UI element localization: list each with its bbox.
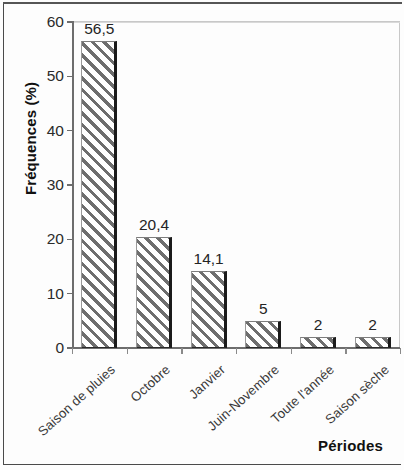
y-tick-mark	[67, 130, 72, 131]
page-frame-top-edge	[3, 2, 402, 4]
x-tick-mark	[181, 348, 182, 354]
bar-value-label: 2	[288, 317, 348, 333]
chart-page: Fréquences (%) Périodes 0102030405060 56…	[0, 0, 404, 470]
y-tick-mark	[67, 184, 72, 185]
y-tick-label: 30	[24, 177, 64, 193]
y-tick-label: 50	[24, 68, 64, 84]
plot-area-border	[72, 21, 400, 349]
bar	[191, 271, 227, 348]
bar	[300, 337, 336, 348]
y-tick-label: 40	[24, 123, 64, 139]
y-tick-label: 10	[24, 286, 64, 302]
x-tick-mark	[236, 348, 237, 354]
bar	[355, 337, 391, 348]
y-tick-mark	[67, 239, 72, 240]
x-axis-title: Périodes	[318, 437, 383, 454]
bar-value-label: 56,5	[69, 21, 129, 37]
x-tick-mark	[291, 348, 292, 354]
x-tick-mark	[127, 348, 128, 354]
y-tick-label: 0	[24, 340, 64, 356]
bar-value-label: 14,1	[179, 251, 239, 267]
bar-value-label: 5	[233, 301, 293, 317]
y-tick-mark	[67, 293, 72, 294]
x-tick-mark	[345, 348, 346, 354]
y-tick-mark	[67, 76, 72, 77]
bar	[245, 321, 281, 348]
y-tick-label: 60	[24, 14, 64, 30]
bar-value-label: 20,4	[124, 217, 184, 233]
bar	[136, 237, 172, 348]
x-tick-mark	[72, 348, 73, 354]
y-axis-line	[72, 21, 74, 349]
bar-value-label: 2	[343, 317, 403, 333]
bar	[81, 41, 117, 348]
x-tick-mark	[400, 348, 401, 354]
y-tick-label: 20	[24, 231, 64, 247]
